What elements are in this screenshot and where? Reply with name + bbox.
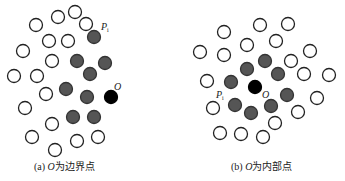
- open-point: [285, 55, 298, 68]
- open-point: [71, 135, 84, 148]
- open-point: [19, 102, 32, 115]
- label-pi: Pi: [215, 89, 224, 101]
- open-point: [311, 92, 324, 105]
- open-point: [257, 131, 270, 144]
- center-point-o: [105, 91, 118, 104]
- neighbor-point: [245, 107, 258, 120]
- neighbor-point: [84, 68, 97, 81]
- open-point: [218, 49, 231, 62]
- open-point: [8, 70, 21, 83]
- open-point: [43, 35, 56, 48]
- open-point: [194, 46, 207, 59]
- open-point: [292, 106, 305, 119]
- neighbor-point: [60, 83, 73, 96]
- open-point: [207, 102, 220, 115]
- neighbor-point: [259, 55, 272, 68]
- caption-a-var: O: [48, 161, 55, 172]
- open-point: [46, 118, 59, 131]
- label-o: O: [114, 81, 121, 92]
- open-point: [214, 127, 227, 140]
- center-point-o: [249, 81, 262, 94]
- neighbor-point: [99, 57, 112, 70]
- label-pi: Pi: [100, 21, 109, 33]
- neighbor-point: [272, 68, 285, 81]
- open-point: [30, 19, 43, 32]
- neighbor-point: [225, 76, 238, 89]
- open-point: [46, 55, 59, 68]
- open-point: [92, 131, 105, 144]
- neighbor-point: [81, 91, 94, 104]
- open-point: [254, 19, 267, 32]
- open-point: [26, 131, 39, 144]
- open-point: [270, 35, 283, 48]
- open-point: [40, 88, 53, 101]
- neighbor-point: [241, 63, 254, 76]
- open-point: [298, 68, 311, 81]
- open-point: [69, 6, 82, 19]
- open-point: [201, 75, 214, 88]
- neighbor-point: [88, 111, 101, 124]
- open-point: [235, 128, 248, 141]
- neighbor-point: [281, 89, 294, 102]
- caption-a-prefix: (a): [34, 161, 48, 172]
- open-point: [218, 26, 231, 39]
- open-point: [80, 18, 93, 31]
- open-point: [241, 39, 254, 52]
- open-point: [269, 117, 282, 130]
- caption-b-suffix: 为内部点: [252, 161, 292, 172]
- neighbor-point: [67, 111, 80, 124]
- caption-b-prefix: (b): [231, 161, 245, 172]
- open-point: [282, 18, 295, 31]
- open-point: [62, 35, 75, 48]
- neighbor-point: [88, 31, 101, 44]
- open-point: [49, 144, 62, 157]
- diagram-canvas: OPiOPi: [0, 0, 345, 181]
- open-point: [31, 70, 44, 83]
- open-point: [17, 45, 30, 58]
- open-point: [52, 11, 65, 24]
- neighbor-point: [71, 55, 84, 68]
- open-point: [323, 69, 336, 82]
- caption-a-suffix: 为边界点: [55, 161, 95, 172]
- neighbor-point: [265, 100, 278, 113]
- neighbor-point: [229, 99, 242, 112]
- caption-b: (b) O为内部点: [231, 158, 292, 173]
- open-point: [304, 45, 317, 58]
- label-o: O: [262, 89, 269, 100]
- caption-a: (a) O为边界点: [34, 158, 95, 173]
